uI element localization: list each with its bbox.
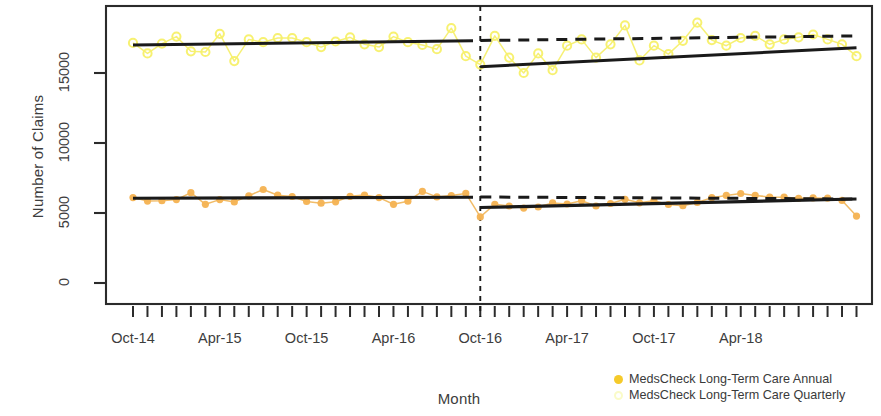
x-axis-tick-label: Apr-16	[348, 330, 438, 346]
legend-item: MedsCheck Long-Term Care Annual	[614, 371, 880, 387]
legend-swatch-circle-icon	[614, 375, 623, 384]
data-point	[477, 213, 484, 220]
data-point	[318, 200, 325, 207]
data-point	[332, 198, 339, 205]
y-axis-tick-label: 15000	[56, 42, 72, 102]
plot-frame	[106, 6, 872, 304]
data-point	[202, 201, 209, 208]
data-point	[852, 52, 860, 60]
chart-figure: Number of Claims Month 050001000015000 O…	[0, 0, 881, 416]
x-axis-tick-label: Apr-17	[522, 330, 612, 346]
data-point	[737, 190, 744, 197]
data-point	[260, 186, 267, 193]
x-axis-tick-label: Oct-15	[262, 330, 352, 346]
legend-swatch-circle-icon	[614, 391, 623, 400]
y-axis-tick-label: 0	[56, 252, 72, 312]
x-axis-tick-label: Oct-14	[88, 330, 178, 346]
legend-item-label: MedsCheck Long-Term Care Annual	[629, 371, 832, 387]
data-point	[390, 201, 397, 208]
y-axis-tick-label: 5000	[56, 182, 72, 242]
x-axis-tick-label: Apr-18	[696, 330, 786, 346]
data-point	[419, 188, 426, 195]
y-axis-title: Number of Claims	[29, 57, 46, 257]
data-point	[187, 189, 194, 196]
fitted-trend-line	[133, 197, 473, 198]
y-axis-tick-label: 10000	[56, 112, 72, 172]
legend-item: MedsCheck Long-Term Care Quarterly	[614, 387, 880, 403]
x-axis-tick-label: Oct-16	[435, 330, 525, 346]
its-line-chart	[0, 0, 881, 416]
x-axis-title: Month	[404, 390, 514, 407]
x-axis-tick-label: Apr-15	[175, 330, 265, 346]
data-point	[853, 213, 860, 220]
x-axis-tick-label: Oct-17	[609, 330, 699, 346]
legend-item-label: MedsCheck Long-Term Care Quarterly	[629, 387, 845, 403]
chart-legend: MedsCheck Long-Term Care AnnualMedsCheck…	[614, 371, 880, 403]
